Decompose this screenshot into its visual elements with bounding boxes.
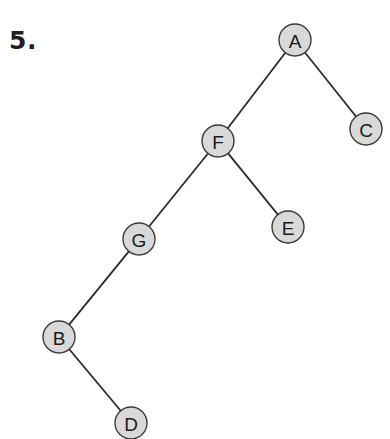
node-d: D <box>115 407 147 439</box>
node-f: F <box>202 125 234 157</box>
node-c: C <box>350 113 382 145</box>
node-label: A <box>289 31 302 52</box>
node-b: B <box>43 321 75 353</box>
node-label: G <box>132 230 147 251</box>
node-label: E <box>282 218 295 239</box>
node-label: D <box>124 414 138 435</box>
node-label: F <box>212 132 224 153</box>
edge-f-e <box>228 153 278 214</box>
binary-tree-diagram: ACFEGBD <box>0 0 390 439</box>
node-e: E <box>272 211 304 243</box>
edge-b-d <box>69 349 120 410</box>
edge-a-c <box>305 53 356 117</box>
edge-f-g <box>149 153 208 226</box>
node-g: G <box>123 223 155 255</box>
tree-edges <box>69 53 356 411</box>
node-label: B <box>53 328 66 349</box>
edge-g-b <box>69 251 129 324</box>
node-label: C <box>359 120 373 141</box>
edge-a-f <box>228 53 286 129</box>
node-a: A <box>279 24 311 56</box>
